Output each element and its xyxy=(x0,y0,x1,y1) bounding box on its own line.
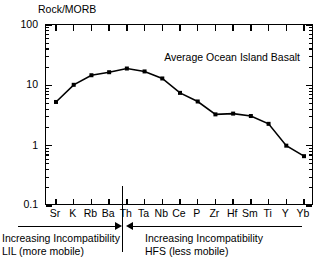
data-point-Th xyxy=(125,67,129,71)
x-tick-Yb-top xyxy=(303,25,304,31)
x-tick-K-bot xyxy=(73,199,74,205)
y-minor-tick xyxy=(309,163,312,164)
y-minor-tick xyxy=(309,94,312,95)
y-minor-tick xyxy=(309,169,312,170)
lil-annotation: Increasing Incompatibility LIL (more mob… xyxy=(2,232,120,258)
y-tick-label-100: 100 xyxy=(4,18,38,30)
y-major-tick-10-right xyxy=(306,85,312,86)
y-minor-tick xyxy=(46,34,49,35)
x-tick-Ti-top xyxy=(268,25,269,31)
x-tick-Sm-top xyxy=(250,25,251,31)
y-minor-tick xyxy=(46,30,49,31)
plot-area: Average Ocean Island Basalt xyxy=(45,24,313,205)
data-point-Ba xyxy=(107,70,111,74)
x-tick-Yb-bot xyxy=(303,199,304,205)
data-point-Ce xyxy=(178,91,182,95)
x-axis-label-Sr: Sr xyxy=(50,207,61,219)
x-axis-label-Yb: Yb xyxy=(297,207,310,219)
x-tick-Ta-top xyxy=(144,25,145,31)
x-axis-label-K: K xyxy=(69,207,76,219)
data-point-Hf xyxy=(231,112,235,116)
y-minor-tick xyxy=(309,154,312,155)
x-tick-Ta-bot xyxy=(144,199,145,205)
lil-arrow xyxy=(18,222,122,231)
data-point-Sm xyxy=(249,114,253,118)
x-tick-Sr-top xyxy=(55,25,56,31)
y-minor-tick xyxy=(46,48,49,49)
data-point-Rb xyxy=(89,73,93,77)
lil-annotation-line2: LIL (more mobile) xyxy=(2,245,120,258)
lil-annotation-line1: Increasing Incompatibility xyxy=(2,232,120,245)
data-point-Sr xyxy=(54,100,58,104)
x-tick-Th-top xyxy=(126,25,127,31)
y-minor-tick xyxy=(46,177,49,178)
y-minor-tick xyxy=(46,169,49,170)
x-tick-K-top xyxy=(73,25,74,31)
y-tick-label-1: 1 xyxy=(4,139,38,151)
x-axis-label-P: P xyxy=(193,207,200,219)
y-minor-tick xyxy=(309,91,312,92)
y-tick-label-0.1: 0.1 xyxy=(4,198,38,210)
x-tick-Zr-top xyxy=(215,25,216,31)
data-point-Yb xyxy=(302,154,306,158)
y-minor-tick xyxy=(46,103,49,104)
data-point-P xyxy=(196,99,200,103)
x-tick-Nb-top xyxy=(162,25,163,31)
y-major-tick-10-left xyxy=(46,85,52,86)
y-minor-tick xyxy=(46,116,49,117)
x-tick-Y-top xyxy=(286,25,287,31)
y-minor-tick xyxy=(309,103,312,104)
x-tick-Zr-bot xyxy=(215,199,216,205)
x-tick-Ba-bot xyxy=(108,199,109,205)
y-minor-tick xyxy=(46,91,49,92)
y-minor-tick xyxy=(309,159,312,160)
x-axis-label-Ta: Ta xyxy=(138,207,149,219)
x-axis-label-Y: Y xyxy=(282,207,289,219)
y-minor-tick xyxy=(309,38,312,39)
y-minor-tick xyxy=(46,43,49,44)
spider-diagram-figure: Rock/MORB 100 10 1 0.1 Average Ocean Isl… xyxy=(0,0,321,272)
x-tick-P-bot xyxy=(197,199,198,205)
x-tick-P-top xyxy=(197,25,198,31)
y-minor-tick xyxy=(46,94,49,95)
x-tick-Rb-top xyxy=(91,25,92,31)
y-minor-tick xyxy=(309,88,312,89)
x-tick-Nb-bot xyxy=(162,199,163,205)
x-tick-Hf-bot xyxy=(232,199,233,205)
y-minor-tick xyxy=(309,127,312,128)
hfs-annotation-line1: Increasing Incompatibility xyxy=(145,232,263,245)
hfs-annotation-line2: HFS (less mobile) xyxy=(145,245,263,258)
x-axis-label-Rb: Rb xyxy=(84,207,97,219)
series-path xyxy=(56,69,304,157)
y-major-tick-100-left xyxy=(46,24,52,25)
x-axis-label-Th: Th xyxy=(120,207,132,219)
x-tick-Ti-bot xyxy=(268,199,269,205)
data-point-Ti xyxy=(267,122,271,126)
y-minor-tick xyxy=(309,116,312,117)
y-minor-tick xyxy=(309,34,312,35)
y-minor-tick xyxy=(309,48,312,49)
x-tick-Rb-bot xyxy=(91,199,92,205)
x-axis-label-Sm: Sm xyxy=(242,207,258,219)
y-minor-tick xyxy=(46,56,49,57)
y-major-tick-1-right xyxy=(306,145,312,146)
x-tick-Ce-bot xyxy=(179,199,180,205)
y-minor-tick xyxy=(309,148,312,149)
y-minor-tick xyxy=(309,151,312,152)
data-point-K xyxy=(72,83,76,87)
hfs-annotation: Increasing Incompatibility HFS (less mob… xyxy=(145,232,263,258)
y-minor-tick xyxy=(46,27,49,28)
x-axis-label-Zr: Zr xyxy=(209,207,219,219)
data-point-Nb xyxy=(160,76,164,80)
x-tick-Th-bot xyxy=(126,199,127,205)
y-major-tick-1-left xyxy=(46,145,52,146)
lil-hfs-divider xyxy=(122,186,123,252)
y-minor-tick xyxy=(309,30,312,31)
y-tick-label-10: 10 xyxy=(4,78,38,90)
y-minor-tick xyxy=(46,127,49,128)
y-minor-tick xyxy=(309,187,312,188)
data-series-line xyxy=(46,25,314,206)
y-minor-tick xyxy=(309,98,312,99)
y-minor-tick xyxy=(309,177,312,178)
x-tick-Hf-top xyxy=(232,25,233,31)
